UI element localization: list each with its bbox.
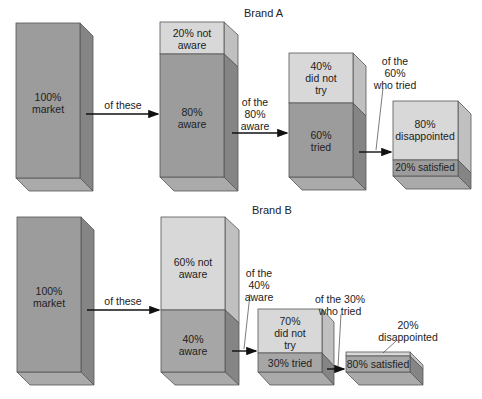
brand-a-arrow3-label: of the 60% who tried — [374, 55, 417, 91]
brand-b-box1-label: 100% market — [33, 285, 65, 309]
brand-b-not-aware-label: 60% not aware — [174, 256, 213, 280]
label-line: disappointed — [395, 130, 455, 142]
label-line: of the — [374, 55, 417, 67]
label-line: 60% — [310, 129, 331, 141]
label-line: try — [305, 84, 337, 96]
label-line: 100% — [32, 91, 64, 103]
label-line: 40% — [305, 60, 337, 72]
brand-a-title: Brand A — [244, 7, 283, 19]
brand-a-not-aware-label: 20% not aware — [173, 27, 212, 51]
label-line: 20% — [378, 319, 438, 331]
label-line: aware — [173, 39, 212, 51]
brand-a-arrow2-label: of the 80% aware — [241, 96, 270, 132]
brand-a-satisfied-label: 20% satisfied — [395, 162, 454, 174]
label-line: 100% — [33, 285, 65, 297]
label-line: 40% — [179, 333, 208, 345]
label-line: aware — [245, 291, 274, 303]
brand-a-satisfaction-box — [393, 101, 471, 189]
label-line: aware — [178, 118, 207, 130]
label-line: market — [33, 297, 65, 309]
label-line: aware — [241, 120, 270, 132]
label-line: tried — [310, 141, 331, 153]
label-line: aware — [179, 345, 208, 357]
label-line: of the 30% — [315, 293, 365, 305]
brand-b-awareness-box — [161, 217, 239, 385]
label-line: try — [274, 339, 306, 351]
brand-b-title: Brand B — [252, 204, 292, 216]
brand-b-aware-label: 40% aware — [179, 333, 208, 357]
brand-b-tried-label: 30% tried — [268, 357, 312, 369]
label-line: 80% — [241, 108, 270, 120]
label-line: who tried — [374, 79, 417, 91]
label-line: did not — [274, 327, 306, 339]
label-line: 80% — [178, 106, 207, 118]
brand-b-arrow3-label: of the 30% who tried — [315, 293, 365, 317]
label-line: aware — [174, 268, 213, 280]
label-line: 80% — [395, 118, 455, 130]
label-line: of the — [245, 267, 274, 279]
label-line: 20% not — [173, 27, 212, 39]
label-line: disappointed — [378, 331, 438, 343]
label-line: who tried — [315, 305, 365, 317]
brand-a-disappointed-label: 80% disappointed — [395, 118, 455, 142]
brand-a-did-not-try-label: 40% did not try — [305, 60, 337, 96]
brand-a-aware-label: 80% aware — [178, 106, 207, 130]
brand-a-tried-label: 60% tried — [310, 129, 331, 153]
label-line: 40% — [245, 279, 274, 291]
brand-b-satisfied-label: 80% satisfied — [347, 358, 409, 370]
label-line: market — [32, 103, 64, 115]
label-line: of the — [241, 96, 270, 108]
brand-a-arrow1-label: of these — [104, 99, 141, 111]
brand-b-arrow2-label: of the 40% aware — [245, 267, 274, 303]
label-line: 60% — [374, 67, 417, 79]
brand-a-box1-label: 100% market — [32, 91, 64, 115]
brand-a-leader-3 — [376, 88, 383, 150]
brand-b-arrow1-label: of these — [104, 295, 141, 307]
label-line: did not — [305, 72, 337, 84]
brand-b-did-not-try-label: 70% did not try — [274, 315, 306, 351]
label-line: 60% not — [174, 256, 213, 268]
brand-b-leader-3 — [338, 314, 341, 367]
brand-b-disappointed-label: 20% disappointed — [378, 319, 438, 343]
label-line: 70% — [274, 315, 306, 327]
